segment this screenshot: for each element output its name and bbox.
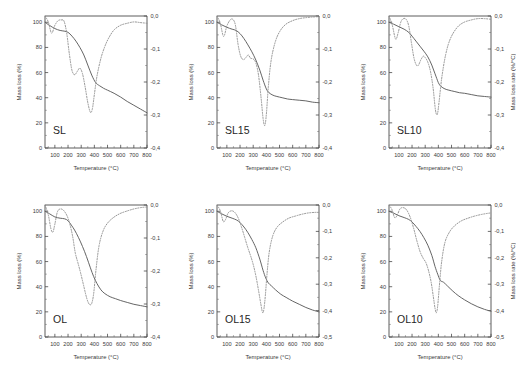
x-tick-label: 500 (103, 341, 112, 347)
y-right-tick-label: -0,3 (495, 281, 505, 287)
panel-label: OL15 (225, 313, 251, 325)
y-right-axis-title: Mass loss rate (%/°C) (510, 242, 516, 299)
x-tick-label: 500 (447, 152, 456, 158)
y-right-tick-label: 0,0 (151, 202, 159, 208)
x-tick-label: 100 (394, 152, 403, 158)
x-tick-label: 700 (301, 341, 310, 347)
chart-svg-sl: 100200300400500600700800Temperature (°C)… (0, 0, 172, 189)
x-tick-label: 700 (129, 341, 138, 347)
x-tick-label: 100 (394, 341, 403, 347)
y-left-tick-label: 60 (36, 259, 42, 265)
x-tick-label: 400 (434, 341, 443, 347)
y-right-tick-label: -0,2 (151, 79, 161, 85)
y-left-tick-label: 100 (377, 208, 386, 214)
y-right-tick-label: 0,0 (151, 13, 159, 19)
y-left-tick-label: 0 (211, 145, 214, 151)
x-tick-label: 200 (407, 152, 416, 158)
y-left-tick-label: 80 (208, 233, 214, 239)
chart-svg-ol15: 100200300400500600700800Temperature (°C)… (172, 189, 344, 378)
x-tick-label: 800 (486, 152, 495, 158)
x-tick-label: 400 (434, 152, 443, 158)
panel-label: OL (53, 313, 67, 325)
dtg-curve (217, 16, 319, 126)
y-left-tick-label: 40 (208, 284, 214, 290)
dtg-curve (217, 205, 319, 313)
y-right-tick-label: -0,2 (323, 255, 333, 261)
y-left-tick-label: 100 (377, 19, 386, 25)
x-tick-label: 500 (275, 152, 284, 158)
y-right-tick-label: -0,4 (151, 334, 161, 340)
y-right-tick-label: -0,3 (151, 112, 161, 118)
chart-panel-sl10: 100200300400500600700800Temperature (°C)… (344, 0, 516, 189)
x-tick-label: 800 (486, 341, 495, 347)
y-left-tick-label: 80 (380, 44, 386, 50)
chart-svg-ol10: 100200300400500600700800Temperature (°C)… (344, 189, 516, 378)
y-right-tick-label: -0,4 (323, 145, 333, 151)
y-left-axis-title: Mass loss (%) (188, 252, 194, 289)
y-right-tick-label: -0,2 (495, 255, 505, 261)
x-axis-title: Temperature (°C) (73, 354, 118, 360)
y-left-tick-label: 20 (208, 309, 214, 315)
chart-panel-sl: 100200300400500600700800Temperature (°C)… (0, 0, 172, 189)
y-left-tick-label: 100 (205, 208, 214, 214)
x-tick-label: 400 (90, 152, 99, 158)
y-left-tick-label: 20 (36, 120, 42, 126)
x-tick-label: 700 (301, 152, 310, 158)
x-tick-label: 800 (142, 341, 151, 347)
y-left-tick-label: 60 (208, 259, 214, 265)
y-left-tick-label: 80 (36, 44, 42, 50)
y-right-tick-label: -0,1 (151, 46, 161, 52)
y-left-tick-label: 0 (39, 145, 42, 151)
panel-label: SL (53, 124, 66, 136)
x-tick-label: 500 (275, 341, 284, 347)
y-right-tick-label: -0,2 (323, 79, 333, 85)
chart-svg-sl15: 100200300400500600700800Temperature (°C)… (172, 0, 344, 189)
x-tick-label: 400 (262, 341, 271, 347)
y-right-tick-label: -0,4 (495, 308, 505, 314)
chart-svg-sl10: 100200300400500600700800Temperature (°C)… (344, 0, 516, 189)
y-left-tick-label: 80 (380, 233, 386, 239)
y-left-tick-label: 40 (36, 95, 42, 101)
y-left-axis-title: Mass loss (%) (360, 63, 366, 100)
y-right-tick-label: -0,5 (323, 334, 333, 340)
x-tick-label: 300 (77, 152, 86, 158)
y-left-tick-label: 0 (39, 334, 42, 340)
dtg-curve (389, 16, 491, 115)
x-tick-label: 800 (314, 152, 323, 158)
x-tick-label: 600 (288, 341, 297, 347)
y-left-axis-title: Mass loss (%) (16, 63, 22, 100)
x-tick-label: 300 (249, 341, 258, 347)
y-left-tick-label: 20 (208, 120, 214, 126)
y-left-tick-label: 100 (205, 19, 214, 25)
tg-curve (389, 211, 491, 311)
x-axis-title: Temperature (°C) (417, 354, 462, 360)
x-axis-title: Temperature (°C) (245, 354, 290, 360)
x-tick-label: 700 (129, 152, 138, 158)
y-right-tick-label: 0,0 (323, 13, 331, 19)
chart-panel-ol10: 100200300400500600700800Temperature (°C)… (344, 189, 516, 378)
x-tick-label: 300 (77, 341, 86, 347)
y-right-tick-label: -0,4 (151, 145, 161, 151)
x-tick-label: 200 (63, 152, 72, 158)
chart-panel-sl15: 100200300400500600700800Temperature (°C)… (172, 0, 344, 189)
y-left-tick-label: 20 (380, 309, 386, 315)
x-axis-title: Temperature (°C) (245, 165, 290, 171)
y-right-tick-label: -0,1 (323, 228, 333, 234)
y-right-tick-label: -0,1 (323, 46, 333, 52)
y-right-tick-label: -0,1 (495, 228, 505, 234)
chart-svg-ol: 100200300400500600700800Temperature (°C)… (0, 189, 172, 378)
tg-curve (389, 22, 491, 97)
x-tick-label: 100 (222, 341, 231, 347)
y-left-tick-label: 60 (36, 70, 42, 76)
y-left-tick-label: 20 (380, 120, 386, 126)
x-tick-label: 100 (222, 152, 231, 158)
y-right-tick-label: -0,3 (323, 281, 333, 287)
x-tick-label: 200 (407, 341, 416, 347)
tg-curve (217, 22, 319, 102)
panel-grid: 100200300400500600700800Temperature (°C)… (0, 0, 516, 378)
y-left-tick-label: 20 (36, 309, 42, 315)
x-tick-label: 600 (116, 152, 125, 158)
y-right-tick-label: -0,3 (495, 112, 505, 118)
dtg-curve (389, 205, 491, 313)
y-left-tick-label: 60 (380, 70, 386, 76)
